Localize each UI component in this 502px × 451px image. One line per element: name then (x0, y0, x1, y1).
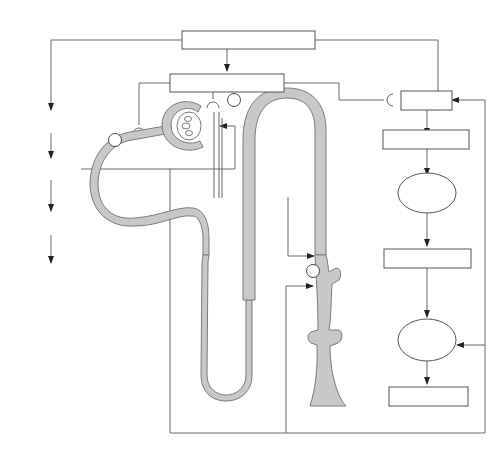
glomerulus-capillary (182, 123, 190, 129)
synapse-site1-icon (207, 102, 219, 108)
edge-volume-to-heart (51, 40, 182, 110)
glomerulus-capillary (186, 131, 193, 136)
synapse-renin-icon (387, 94, 393, 106)
glomerulus-capillary (185, 117, 192, 122)
node-aldosterone (389, 387, 468, 406)
node-angiotensin-2 (384, 249, 471, 268)
node-volume-expansion (182, 31, 315, 49)
edge-urodilatin-to-duct (288, 197, 314, 256)
node-angiotensin-1 (383, 130, 469, 149)
arteriole-lines (214, 112, 222, 198)
node-adrenal-gland (398, 319, 456, 361)
nephron-illustration (90, 88, 346, 406)
node-lung (398, 173, 456, 213)
edge-anp-to-site3 (286, 286, 313, 433)
node-sympathetic-activity (170, 74, 284, 92)
node-renin (401, 91, 452, 110)
volume-expansion-diagram (0, 0, 502, 451)
site-marker-1 (228, 94, 241, 107)
site-marker-2 (109, 134, 122, 147)
site-marker-3 (307, 265, 320, 278)
